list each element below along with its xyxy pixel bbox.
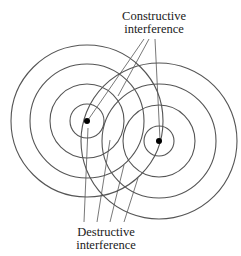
constructive-label-line2: interference xyxy=(122,23,186,36)
wavefront-circles xyxy=(11,45,237,219)
source-dot-2 xyxy=(156,138,162,144)
destructive-label: Destructive interference xyxy=(74,226,138,252)
source-dot-1 xyxy=(84,118,90,124)
interference-diagram xyxy=(0,0,241,256)
destructive-leader-lines xyxy=(84,128,138,222)
constructive-label: Constructive interference xyxy=(122,10,186,36)
destructive-label-line2: interference xyxy=(74,239,138,252)
